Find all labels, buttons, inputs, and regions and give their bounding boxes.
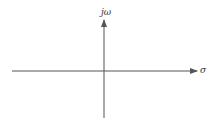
axes-canvas [0,0,215,124]
imaginary-axis-label: jω [101,8,111,17]
real-axis-label: σ [200,66,206,75]
